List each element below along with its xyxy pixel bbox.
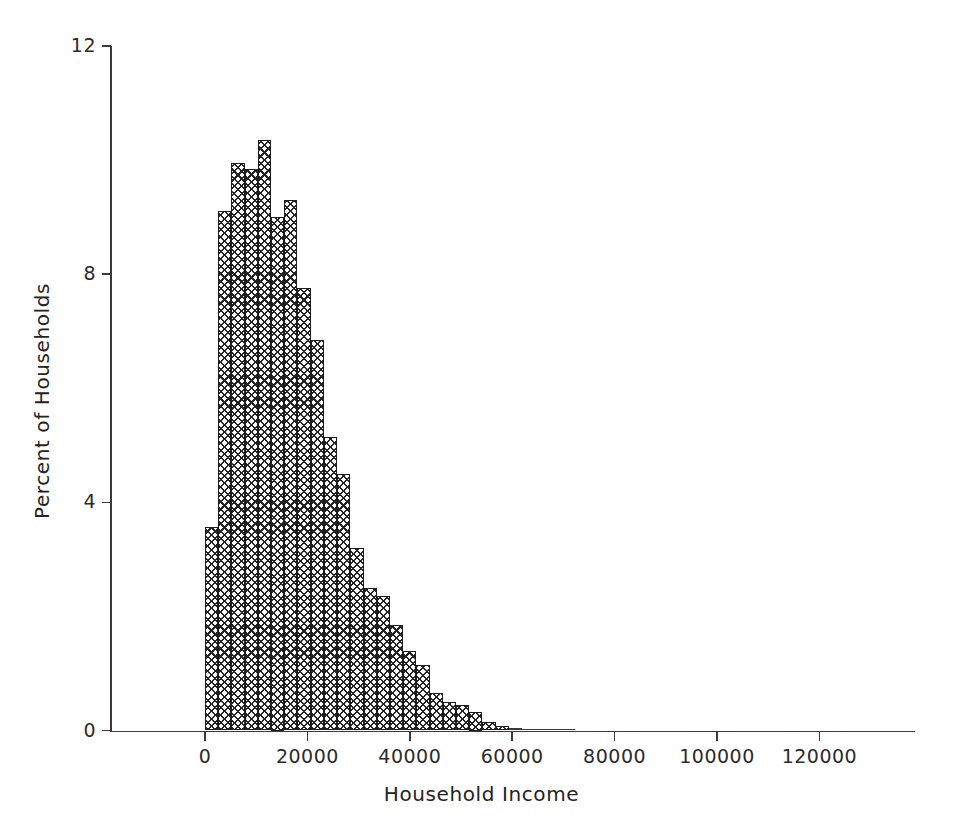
y-axis-tick-label: 0 <box>83 719 96 741</box>
histogram-bar <box>284 200 297 730</box>
y-axis-tick <box>102 502 111 504</box>
y-axis-tick <box>102 45 111 47</box>
histogram-bar <box>205 527 218 731</box>
y-axis-tick-label: 12 <box>71 34 96 56</box>
histogram-bar <box>311 340 324 731</box>
histogram-bar <box>443 702 456 731</box>
histogram-bar <box>456 705 469 731</box>
histogram-bar <box>350 548 363 731</box>
x-axis-title: Household Income <box>0 782 963 806</box>
x-axis-tick-label: 120000 <box>782 745 858 767</box>
histogram-bar <box>324 437 337 731</box>
histogram-plot-area <box>0 0 963 831</box>
y-axis-tick <box>102 730 111 732</box>
x-axis-tick <box>614 732 616 741</box>
histogram-bar <box>245 169 258 731</box>
histogram-bar <box>337 474 350 731</box>
x-axis-tick-label: 20000 <box>276 745 339 767</box>
histogram-bar <box>297 288 310 730</box>
y-axis-line <box>110 46 112 732</box>
histogram-bar <box>430 693 443 730</box>
histogram-bar <box>482 722 495 731</box>
y-axis-title: Percent of Households <box>30 241 54 561</box>
x-axis-tick-label: 60000 <box>481 745 544 767</box>
histogram-bar <box>258 140 271 730</box>
histogram-bar <box>416 665 429 731</box>
y-axis-tick <box>102 273 111 275</box>
histogram-bar <box>218 211 231 730</box>
histogram-bar <box>469 712 482 730</box>
x-axis-tick-label: 100000 <box>679 745 755 767</box>
x-axis-tick <box>716 732 718 741</box>
x-axis-tick-label: 0 <box>199 745 212 767</box>
x-axis-tick <box>307 732 309 741</box>
y-axis-tick-label: 4 <box>83 490 96 512</box>
histogram-bar <box>390 625 403 731</box>
x-axis-tick-label: 80000 <box>583 745 646 767</box>
x-axis-tick <box>204 732 206 741</box>
histogram-bar <box>364 588 377 731</box>
x-axis-tick <box>819 732 821 741</box>
histogram-bar <box>271 217 284 730</box>
chart-canvas: 04812 020000400006000080000100000120000 … <box>0 0 963 831</box>
x-axis-tick-label: 40000 <box>378 745 441 767</box>
x-axis-tick <box>511 732 513 741</box>
y-axis-tick-label: 8 <box>83 262 96 284</box>
histogram-bar <box>231 163 244 731</box>
x-axis-tick <box>409 732 411 741</box>
histogram-bar <box>377 596 390 730</box>
histogram-bar <box>403 651 416 731</box>
